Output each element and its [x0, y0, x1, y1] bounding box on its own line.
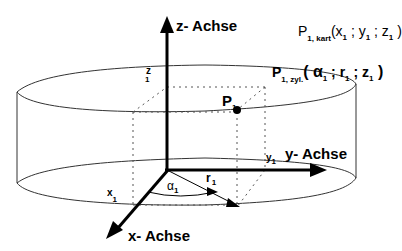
x-axis: [118, 170, 168, 228]
cylinder-bottom-ellipse: [17, 158, 356, 205]
x-axis-label: x- Achse: [128, 227, 190, 244]
z1-label: z1: [145, 65, 151, 84]
y-axis-label: y- Achse: [285, 145, 347, 162]
point-label: P1: [222, 92, 237, 112]
cylinder: [17, 65, 356, 205]
cartesian-coordinates-label: P1, kart(x1 ; y1 ; z1 ): [298, 23, 402, 43]
z-axis-arrowhead: [160, 16, 174, 33]
axes: [118, 28, 315, 228]
radius-arrowhead: [226, 198, 240, 207]
y1-label: y1: [266, 152, 277, 166]
cylinder-coordinates-diagram: z- Achse y- Achse x- Achse P1 z1 y1 x1 r…: [0, 0, 402, 251]
x1-label: x1: [107, 187, 118, 204]
r1-label: r1: [206, 171, 217, 187]
radius-vector: [148, 170, 234, 204]
z-axis-label: z- Achse: [176, 17, 237, 34]
alpha1-label: α1: [167, 179, 179, 195]
cylindrical-coordinates-label: P1, zyl.( α1 ; r1 ; z1 ): [272, 63, 383, 84]
